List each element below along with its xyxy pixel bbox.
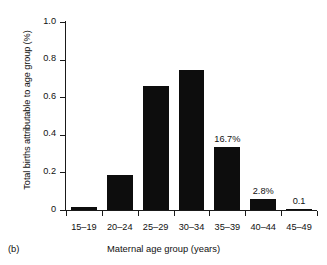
bar: [143, 86, 169, 210]
x-tick-label: 35–39: [215, 222, 241, 232]
y-tick-label: 0.4: [43, 128, 56, 138]
y-tick-label: 0.2: [43, 166, 56, 176]
x-tick-label: 45–49: [286, 222, 312, 232]
y-tick-mark: [60, 135, 65, 136]
bar-chart-figure: Total births attributable to age group (…: [0, 0, 327, 265]
bar-value-label: 0.1: [293, 196, 306, 206]
bar: [286, 209, 312, 210]
y-tick-label: 0.6: [43, 91, 56, 101]
x-tick-label: 20–24: [107, 222, 133, 232]
y-tick-label: 1.0: [43, 16, 56, 26]
y-tick-mark: [60, 22, 65, 23]
bar: [250, 199, 276, 210]
x-tick-mark: [317, 211, 318, 216]
bar: [179, 70, 205, 210]
y-tick-mark: [60, 60, 65, 61]
y-tick-mark: [60, 97, 65, 98]
bar-value-label: 16.7%: [214, 134, 240, 144]
x-tick-label: 25–29: [143, 222, 169, 232]
x-tick-mark: [281, 211, 282, 216]
x-tick-label: 30–34: [179, 222, 205, 232]
bar: [107, 175, 133, 210]
y-tick-mark: [60, 172, 65, 173]
y-axis-title: Total births attributable to age group (…: [22, 10, 32, 210]
x-tick-mark: [174, 211, 175, 216]
x-tick-mark: [138, 211, 139, 216]
y-tick-label: 0.8: [43, 53, 56, 63]
y-tick-mark: [60, 210, 65, 211]
bar-value-label: 2.8%: [253, 186, 274, 196]
x-tick-mark: [66, 211, 67, 216]
y-axis-line: [65, 21, 66, 211]
x-axis-title: Maternal age group (years): [0, 243, 327, 254]
x-tick-label: 15–19: [71, 222, 97, 232]
bar: [214, 147, 240, 210]
bar: [71, 207, 97, 210]
y-tick-label: 0: [51, 204, 56, 214]
x-tick-mark: [209, 211, 210, 216]
x-tick-mark: [102, 211, 103, 216]
x-tick-label: 40–44: [250, 222, 276, 232]
x-tick-mark: [245, 211, 246, 216]
panel-label: (b): [8, 243, 19, 254]
